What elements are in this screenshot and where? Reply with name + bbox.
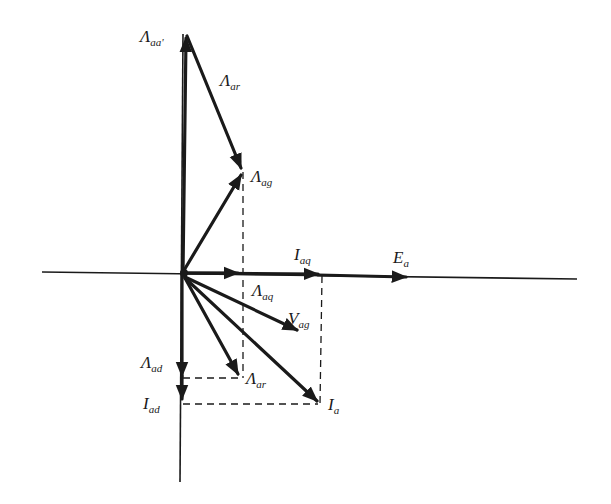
label-v-ag: Vag — [288, 310, 309, 330]
label-lambda-ar-upper: Λar — [220, 72, 240, 92]
label-lambda-aa: Λaa' — [140, 28, 164, 48]
label-lambda-ar-lower: Λar — [246, 370, 266, 390]
label-e-a: Ea — [393, 249, 409, 269]
origin-point — [180, 269, 188, 277]
label-lambda-aq: Λaq — [252, 282, 273, 302]
label-i-a: Ia — [328, 396, 339, 416]
label-lambda-ag: Λag — [251, 168, 272, 188]
phasor-lambda-ar-lower — [185, 278, 238, 374]
phasor-e-a — [318, 275, 406, 277]
label-i-aq: Iaq — [294, 246, 311, 266]
label-lambda-ad: Λad — [141, 354, 162, 374]
label-i-ad: Iad — [143, 395, 160, 415]
phasor-lambda-ar-upper — [187, 36, 241, 168]
phasor-v-ag — [185, 277, 297, 330]
phasor-lambda-ag — [183, 175, 241, 272]
